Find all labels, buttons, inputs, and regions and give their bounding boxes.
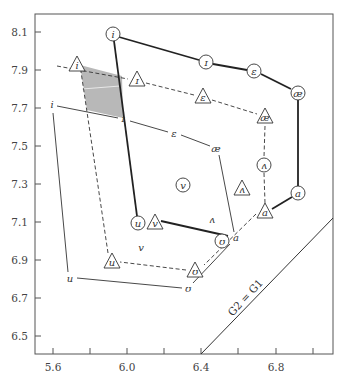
svg-text:v: v	[152, 218, 158, 229]
svg-text:æ: æ	[293, 88, 302, 99]
circle-marker-U: ʊ	[215, 234, 229, 248]
svg-text:ʌ: ʌ	[261, 160, 267, 171]
plain-label-caret: ʌ	[209, 214, 215, 225]
plain-label-v: v	[138, 242, 144, 253]
y-tick-label: 7.5	[11, 140, 28, 152]
y-tick-label: 7.9	[11, 64, 28, 76]
plain-label-i: i	[50, 99, 53, 110]
circle-marker-ae: æ	[291, 86, 305, 100]
svg-text:u: u	[109, 257, 115, 268]
triangle-marker-I: ɪ	[129, 71, 145, 86]
y-tick-label: 8.1	[11, 26, 28, 38]
svg-text:v: v	[180, 180, 186, 191]
svg-text:i: i	[111, 29, 114, 40]
svg-text:ɛ: ɛ	[251, 66, 256, 77]
circle-marker-u: u	[131, 216, 145, 230]
triangle-marker-v: v	[147, 214, 163, 229]
circle-marker-caret: ʌ	[257, 158, 271, 172]
triangle-marker-a: a	[257, 203, 273, 218]
y-tick-label: 7.3	[11, 178, 28, 190]
y-tick-label: 6.9	[11, 254, 28, 266]
y-tick-labels: 8.1 7.9 7.7 7.5 7.3 7.1 6.9 6.7 6.5	[11, 26, 28, 342]
svg-text:ʊ: ʊ	[219, 236, 226, 247]
svg-text:æ: æ	[260, 112, 269, 123]
x-tick-label: 6.8	[268, 361, 285, 373]
triangle-marker-i: i	[69, 56, 85, 71]
y-tick-label: 6.5	[11, 330, 28, 342]
plain-label-ae: æ	[211, 143, 220, 154]
svg-text:ɛ: ɛ	[200, 92, 205, 103]
triangle-marker-caret: ʌ	[234, 180, 250, 195]
circle-marker-v: v	[176, 178, 190, 192]
plain-vowel-lines	[53, 106, 234, 288]
plain-label-a: a	[233, 232, 239, 243]
diagonal-label: G2 = G1	[225, 277, 265, 319]
triangle-marker-U: ʊ	[187, 262, 203, 277]
plain-label-u: u	[67, 273, 73, 284]
plain-label-U: ʊ	[185, 283, 192, 294]
circle-marker-a: a	[291, 186, 305, 200]
triangle-marker-u: u	[104, 253, 120, 268]
svg-text:u: u	[135, 218, 141, 229]
x-tick-label: 6.0	[119, 361, 136, 373]
y-tick-label: 7.1	[11, 216, 28, 228]
triangle-marker-e: ɛ	[195, 88, 211, 103]
circle-markers: i ɪ ɛ æ a ʊ u v	[106, 27, 305, 248]
svg-text:ʊ: ʊ	[192, 266, 199, 277]
vowel-formant-diagram: 8.1 7.9 7.7 7.5 7.3 7.1 6.9 6.7 6.5 5.6 …	[0, 0, 348, 381]
x-tick-label: 6.4	[193, 361, 210, 373]
circle-marker-I: ɪ	[199, 55, 213, 69]
circle-marker-i: i	[106, 27, 120, 41]
y-tick-label: 6.7	[11, 292, 28, 304]
x-axis	[53, 348, 313, 354]
svg-text:ʌ: ʌ	[239, 184, 245, 195]
svg-text:a: a	[262, 207, 268, 218]
x-tick-labels: 5.6 6.0 6.4 6.8	[45, 361, 285, 373]
triangle-marker-ae: æ	[257, 108, 273, 123]
svg-text:i: i	[75, 60, 78, 71]
circle-marker-e: ɛ	[247, 64, 261, 78]
y-tick-label: 7.7	[11, 102, 28, 114]
plain-label-e: ɛ	[171, 128, 176, 139]
svg-text:a: a	[295, 188, 301, 199]
x-tick-label: 5.6	[45, 361, 62, 373]
y-axis	[35, 32, 41, 336]
